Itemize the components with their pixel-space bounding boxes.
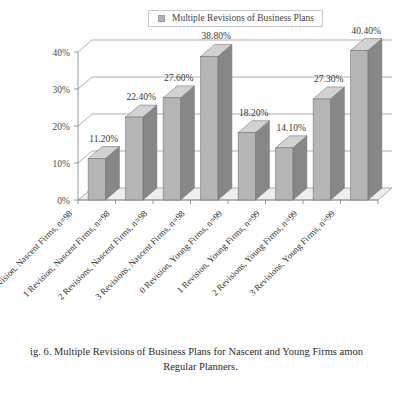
bar-value-label: 38.80% bbox=[202, 31, 231, 41]
bar-value-label: 27.30% bbox=[314, 74, 343, 84]
bar-side-face bbox=[180, 86, 194, 200]
bar-value-label: 40.40% bbox=[352, 26, 381, 36]
bar-front-face bbox=[88, 159, 105, 200]
bar-side-face bbox=[218, 44, 232, 200]
bar-side-face bbox=[368, 39, 382, 200]
chart-gridlines bbox=[78, 40, 392, 163]
floor-plane bbox=[78, 188, 392, 200]
figure-caption-line-2: Regular Planners. bbox=[0, 359, 401, 374]
bar-side-face bbox=[255, 121, 269, 200]
y-axis-tick-label: 0% bbox=[57, 196, 70, 206]
bar-front-face bbox=[351, 51, 368, 200]
bar-chart-svg: 40%30%20%10%0%11.20%22.40%27.60%38.80%18… bbox=[0, 0, 401, 340]
category-axis bbox=[78, 200, 378, 204]
figure-caption: ig. 6. Multiple Revisions of Business Pl… bbox=[0, 344, 401, 374]
bar-column bbox=[238, 121, 269, 200]
figure-caption-line-1: ig. 6. Multiple Revisions of Business Pl… bbox=[0, 344, 401, 359]
bar-value-label: 27.60% bbox=[164, 73, 193, 83]
bar-side-face bbox=[143, 105, 157, 200]
bar-column bbox=[201, 44, 232, 200]
bar-column bbox=[276, 136, 307, 200]
bar-front-face bbox=[126, 117, 143, 200]
bar-value-label: 22.40% bbox=[127, 92, 156, 102]
chart-floor bbox=[78, 188, 392, 200]
chart-plot-area: 40%30%20%10%0%11.20%22.40%27.60%38.80%18… bbox=[0, 0, 401, 340]
y-axis-tick-label: 20% bbox=[53, 122, 71, 132]
value-axis: 40%30%20%10%0% bbox=[53, 48, 78, 206]
y-axis-tick-label: 40% bbox=[53, 48, 71, 58]
bar-front-face bbox=[276, 148, 293, 200]
y-axis-tick-label: 30% bbox=[53, 85, 71, 95]
bar-side-face bbox=[330, 87, 344, 200]
bar-value-label: 18.20% bbox=[239, 108, 268, 118]
bar-front-face bbox=[238, 133, 255, 200]
bar-front-face bbox=[163, 98, 180, 200]
bar-column bbox=[313, 87, 344, 200]
chart-bars: 11.20%22.40%27.60%38.80%18.20%14.10%27.3… bbox=[88, 26, 382, 200]
bar-front-face bbox=[313, 99, 330, 200]
gridline-riser bbox=[78, 40, 92, 52]
gridline-riser bbox=[78, 114, 92, 126]
bar-column bbox=[351, 39, 382, 200]
bar-value-label: 11.20% bbox=[89, 134, 118, 144]
bar-column bbox=[126, 105, 157, 200]
category-labels: 0 Revision, Nascent Firms, n=981 Revisio… bbox=[0, 208, 337, 302]
bar-value-label: 14.10% bbox=[277, 123, 306, 133]
y-axis-tick-label: 10% bbox=[53, 159, 71, 169]
bar-front-face bbox=[201, 56, 218, 200]
bar-column bbox=[88, 147, 119, 200]
gridline-riser bbox=[78, 77, 92, 89]
bar-column bbox=[163, 86, 194, 200]
